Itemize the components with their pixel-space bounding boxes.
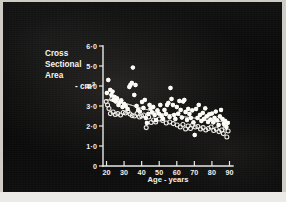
data-point-filled bbox=[186, 107, 190, 111]
data-point-open bbox=[149, 120, 153, 124]
x-tick-label: 40 bbox=[138, 168, 146, 177]
data-point-filled bbox=[167, 115, 171, 119]
data-point-filled bbox=[168, 86, 172, 90]
data-point-filled bbox=[201, 111, 205, 115]
data-point-filled bbox=[172, 113, 176, 117]
data-point-filled bbox=[132, 93, 136, 97]
data-point-filled bbox=[106, 78, 110, 82]
data-point-filled bbox=[216, 123, 220, 127]
y-tick-label: 3·0 bbox=[86, 102, 97, 111]
data-point-filled bbox=[166, 101, 170, 105]
data-point-filled bbox=[189, 116, 193, 120]
data-point-filled bbox=[219, 108, 223, 112]
data-point-filled bbox=[110, 89, 114, 93]
data-point-filled bbox=[162, 108, 166, 112]
data-point-filled bbox=[125, 107, 129, 111]
data-point-filled bbox=[176, 111, 180, 115]
data-point-filled bbox=[197, 103, 201, 107]
data-point-open bbox=[186, 124, 190, 128]
x-tick-label: 20 bbox=[102, 168, 110, 177]
data-point-filled bbox=[130, 81, 134, 85]
data-point-filled bbox=[143, 98, 147, 102]
data-point-filled bbox=[161, 117, 165, 121]
data-point-filled bbox=[171, 103, 175, 107]
y-tick-label: 0 bbox=[93, 162, 97, 171]
data-point-filled bbox=[215, 118, 219, 122]
data-point-filled bbox=[193, 133, 197, 137]
y-axis-tick-labels: 01·02·03·04·05·06·0 bbox=[86, 42, 97, 171]
data-point-filled bbox=[203, 106, 207, 110]
data-point-filled bbox=[145, 121, 149, 125]
data-point-filled bbox=[153, 113, 157, 117]
data-point-open bbox=[144, 126, 148, 130]
data-point-filled bbox=[214, 109, 218, 113]
photographic-plate: 01·02·03·04·05·06·0 2030405060708090 Cro… bbox=[3, 2, 282, 192]
y-axis: 01·02·03·04·05·06·0 bbox=[86, 42, 103, 171]
data-point-filled bbox=[158, 103, 162, 107]
data-point-filled bbox=[138, 109, 142, 113]
y-tick-label: 2·0 bbox=[86, 122, 97, 131]
data-point-filled bbox=[173, 117, 177, 121]
y-axis-title-line: Area bbox=[45, 71, 64, 80]
data-point-filled bbox=[211, 120, 215, 124]
slide-frame-left bbox=[0, 0, 3, 202]
data-point-filled bbox=[175, 105, 179, 109]
data-point-filled bbox=[131, 65, 135, 69]
data-point-filled bbox=[180, 115, 184, 119]
x-tick-label: 90 bbox=[225, 168, 233, 177]
x-axis-title: Age - years bbox=[148, 175, 189, 184]
data-point-filled bbox=[105, 91, 109, 95]
y-axis-title-line: Cross bbox=[45, 49, 69, 58]
data-point-filled bbox=[185, 118, 189, 122]
data-point-filled bbox=[144, 116, 148, 120]
data-point-filled bbox=[187, 112, 191, 116]
data-point-filled bbox=[194, 107, 198, 111]
data-point-filled bbox=[151, 105, 155, 109]
data-point-open bbox=[225, 135, 229, 139]
slide-frame-bottom bbox=[0, 192, 286, 202]
data-point-filled bbox=[224, 125, 228, 129]
data-point-open bbox=[221, 132, 225, 136]
y-tick-label: 5·0 bbox=[86, 62, 97, 71]
data-point-filled bbox=[115, 96, 119, 100]
slide-frame-right bbox=[282, 0, 286, 202]
x-axis-ticks bbox=[107, 161, 230, 166]
data-point-filled bbox=[133, 83, 137, 87]
slide-frame-top bbox=[0, 0, 286, 2]
data-point-filled bbox=[134, 104, 138, 108]
data-point-filled bbox=[191, 120, 195, 124]
y-tick-label: 1·0 bbox=[86, 142, 97, 151]
data-point-filled bbox=[119, 98, 123, 102]
series-filled-circles bbox=[105, 65, 230, 137]
x-tick-label: 80 bbox=[208, 168, 216, 177]
data-point-open bbox=[226, 129, 230, 133]
data-point-open bbox=[181, 122, 185, 126]
data-point-filled bbox=[141, 106, 145, 110]
data-point-filled bbox=[226, 121, 230, 125]
data-point-filled bbox=[146, 112, 150, 116]
data-point-filled bbox=[164, 112, 168, 116]
x-tick-label: 30 bbox=[120, 168, 128, 177]
scatter-plot-figure: 01·02·03·04·05·06·0 2030405060708090 Cro… bbox=[3, 2, 282, 192]
x-tick-label: 70 bbox=[190, 168, 198, 177]
data-point-filled bbox=[169, 97, 173, 101]
data-point-filled bbox=[182, 98, 186, 102]
data-point-filled bbox=[210, 111, 214, 115]
data-point-filled bbox=[154, 118, 158, 122]
data-point-filled bbox=[179, 108, 183, 112]
data-point-filled bbox=[177, 99, 181, 103]
data-point-filled bbox=[190, 108, 194, 112]
screenshot-root: 01·02·03·04·05·06·0 2030405060708090 Cro… bbox=[0, 0, 286, 202]
y-axis-title-line: Sectional bbox=[45, 60, 81, 69]
y-tick-label: 6·0 bbox=[86, 42, 97, 51]
